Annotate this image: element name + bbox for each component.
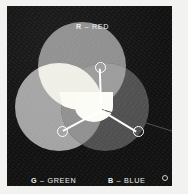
marker-red-circle[interactable] [95,62,106,73]
label-red-sep: – [82,22,92,31]
center-white-region [75,92,113,122]
label-blue: B – BLUE [108,176,146,185]
label-red: R – RED [76,22,109,31]
label-red-name: RED [92,22,109,31]
label-green-sep: – [37,176,47,185]
diagram-plate: R – RED G – GREEN B – BLUE [7,6,172,186]
marker-green-circle[interactable] [57,126,68,137]
marker-blue-circle[interactable] [133,126,144,137]
marker-legend-dot[interactable] [162,175,168,181]
figure-container: R – RED G – GREEN B – BLUE [0,0,188,194]
marker-center-white[interactable] [97,105,105,113]
label-green: G – GREEN [31,176,76,185]
label-blue-sep: – [114,176,124,185]
label-green-name: GREEN [47,176,76,185]
label-blue-name: BLUE [124,176,146,185]
